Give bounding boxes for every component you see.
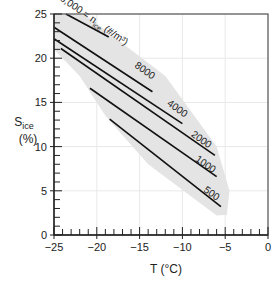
y-tick-label: 15	[35, 96, 47, 108]
x-tick-label: −5	[219, 241, 232, 253]
x-tick-label: −25	[45, 241, 64, 253]
y-tick-label: 5	[41, 185, 47, 197]
y-tick-label: 20	[35, 52, 47, 64]
chart: 16,000 = nice (#/m³)8000400020001000500 …	[0, 0, 280, 283]
x-tick-label: −15	[130, 241, 149, 253]
svg-text:Sice: Sice	[14, 115, 34, 131]
x-tick-label: 0	[265, 241, 271, 253]
y-tick-label: 25	[35, 8, 47, 20]
x-tick-label: −20	[87, 241, 106, 253]
y-axis-label: Sice(%)	[14, 115, 37, 146]
x-tick-label: −10	[173, 241, 192, 253]
y-tick-label: 0	[41, 229, 47, 241]
svg-text:(%): (%)	[19, 132, 38, 146]
x-axis-label: T (°C)	[150, 262, 182, 276]
